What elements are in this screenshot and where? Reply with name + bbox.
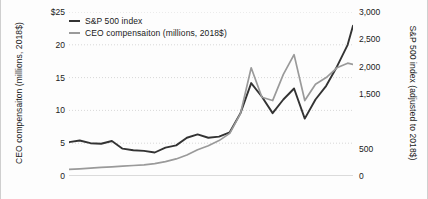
right-tick-label: 0 <box>359 172 364 181</box>
left-tick-label: $25 <box>51 8 65 17</box>
left-tick-label: 10 <box>56 106 65 115</box>
chart-figure: CEO compensaiton (millions, 2018$) S&P 5… <box>0 0 428 199</box>
legend-item[interactable]: CEO compensaiton (millions, 2018$) <box>69 27 227 39</box>
legend-swatch-icon <box>69 20 80 23</box>
legend-label: S&P 500 index <box>85 16 142 26</box>
left-tick-label: 5 <box>60 139 65 148</box>
right-tick-label: 1,500 <box>359 90 380 99</box>
right-tick-label: 500 <box>359 145 373 154</box>
series-line-ceo-comp <box>69 55 353 170</box>
right-tick-label: 2,000 <box>359 63 380 72</box>
left-axis-title: CEO compensaiton (millions, 2018$) <box>14 18 24 168</box>
left-tick-label: 15 <box>56 74 65 83</box>
legend-item[interactable]: S&P 500 index <box>69 15 227 27</box>
legend-swatch-icon <box>69 32 80 35</box>
left-tick-label: 0 <box>60 172 65 181</box>
left-tick-label: 20 <box>56 41 65 50</box>
right-tick-label: 2,500 <box>359 35 380 44</box>
legend-label: CEO compensaiton (millions, 2018$) <box>85 28 227 38</box>
right-axis-title: S&P 500 index (adjusted to 2018$) <box>408 18 418 168</box>
right-tick-label: 3,000 <box>359 8 380 17</box>
chart-legend: S&P 500 indexCEO compensaiton (millions,… <box>69 15 227 39</box>
